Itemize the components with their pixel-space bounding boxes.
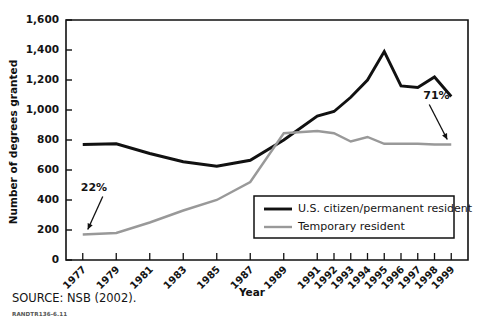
annotation-label-71pct: 71%	[423, 89, 449, 102]
source-note: SOURCE: NSB (2002).	[12, 291, 136, 305]
legend-label-0: U.S. citizen/permanent resident	[298, 202, 473, 215]
y-tick-label: 1,000	[26, 103, 59, 115]
y-tick-label: 600	[37, 163, 59, 175]
y-tick-label: 800	[37, 133, 59, 145]
x-axis-title: Year	[238, 286, 266, 298]
figure-container: 02004006008001,0001,2001,4001,600 197719…	[0, 0, 479, 323]
y-tick-label: 1,600	[26, 13, 59, 25]
annotation-label-22pct: 22%	[81, 181, 107, 194]
chart-legend: U.S. citizen/permanent residentTemporary…	[254, 196, 473, 238]
y-tick-label: 0	[52, 253, 59, 265]
legend-label-1: Temporary resident	[297, 220, 405, 233]
y-tick-label: 400	[37, 193, 59, 205]
y-tick-label: 1,200	[26, 73, 59, 85]
y-axis-title: Number of degrees granted	[7, 60, 19, 225]
rand-document-id: RANDTR136-6.11	[12, 311, 67, 317]
y-tick-label: 1,400	[26, 43, 59, 55]
degrees-granted-line-chart: 02004006008001,0001,2001,4001,600 197719…	[0, 0, 479, 323]
y-tick-label: 200	[37, 223, 59, 235]
